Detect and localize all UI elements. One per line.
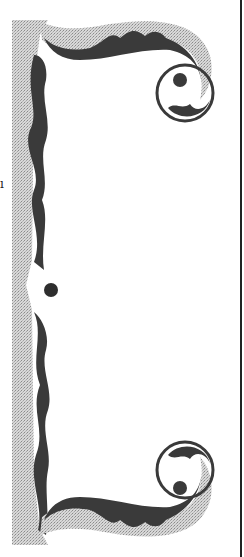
center-bead	[44, 283, 58, 297]
stray-mark: ı	[0, 178, 4, 190]
ornamental-bracket	[0, 0, 244, 557]
right-edge-rule	[240, 0, 242, 557]
top-arm-stipple	[40, 21, 212, 100]
